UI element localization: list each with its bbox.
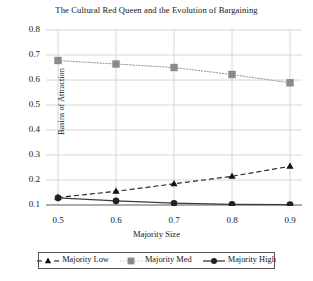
plot-svg <box>46 29 302 206</box>
x-axis-label: Majority Size <box>0 229 313 239</box>
xtick-label-0.8: 0.8 <box>217 215 247 225</box>
ytick-label-0.5: 0.5 <box>14 99 40 109</box>
legend-entry-majority-low[interactable]: Majority Low <box>37 256 109 266</box>
legend-marker-circle-icon <box>203 256 225 266</box>
legend-marker-triangle-icon <box>37 256 59 266</box>
legend-entry-majority-med[interactable]: Majority Med <box>120 256 192 266</box>
legend-marker-square-icon <box>120 256 142 266</box>
xtick-label-0.9: 0.9 <box>275 215 305 225</box>
ytick-label-0.1: 0.1 <box>14 199 40 209</box>
ytick-label-0.7: 0.7 <box>14 49 40 59</box>
legend-entry-majority-high[interactable]: Majority High <box>203 256 276 266</box>
ytick-label-0.8: 0.8 <box>14 24 40 34</box>
legend-label-majority-med: Majority Med <box>145 256 192 264</box>
ytick-label-0.4: 0.4 <box>14 124 40 134</box>
ytick-label-0.2: 0.2 <box>14 174 40 184</box>
chart-legend: Majority Low Majority Med Majority High <box>38 252 275 269</box>
legend-label-majority-low: Majority Low <box>62 256 109 264</box>
chart-figure: The Cultural Red Queen and the Evolution… <box>0 0 313 281</box>
ytick-label-0.6: 0.6 <box>14 74 40 84</box>
plot-area: 0.8 0.7 0.6 0.5 0.4 0.3 0.2 0.1 0.5 0.6 … <box>46 29 302 206</box>
xtick-label-0.5: 0.5 <box>43 215 73 225</box>
legend-label-majority-high: Majority High <box>228 256 276 264</box>
y-axis-label: Basins of Attraction <box>57 42 66 162</box>
xtick-label-0.7: 0.7 <box>159 215 189 225</box>
gridlines <box>46 29 302 205</box>
xtick-label-0.6: 0.6 <box>101 215 131 225</box>
chart-title: The Cultural Red Queen and the Evolution… <box>0 5 313 15</box>
ytick-label-0.3: 0.3 <box>14 149 40 159</box>
